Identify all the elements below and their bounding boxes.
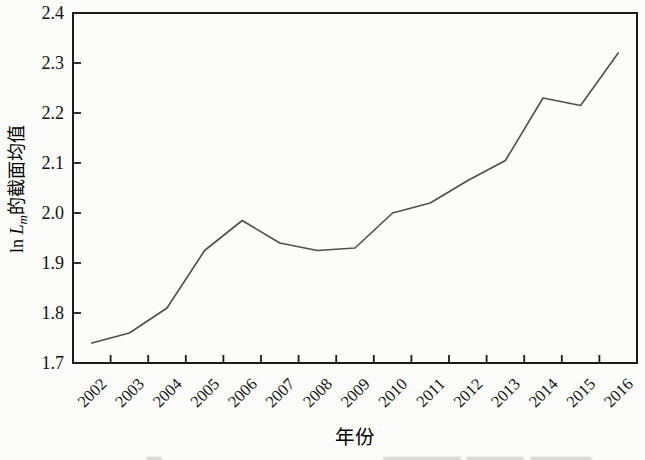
y-tick-label: 1.8: [42, 303, 65, 323]
y-axis-title: ln Lm的截面均值: [7, 125, 30, 253]
x-tick-label: 2007: [262, 374, 299, 411]
x-tick-label: 2011: [412, 374, 448, 410]
y-axis-title-part: m: [15, 215, 30, 224]
plot-area: 1.71.81.92.02.12.22.32.42002200320042005…: [42, 3, 638, 411]
y-tick-label: 2.3: [42, 53, 65, 73]
plot-frame: [73, 13, 637, 363]
y-tick-label: 1.9: [42, 253, 65, 273]
y-tick-label: 2.1: [42, 153, 65, 173]
data-line: [92, 53, 618, 343]
y-tick-label: 2.0: [42, 203, 65, 223]
x-tick-label: 2008: [299, 374, 336, 411]
y-axis-title-part: 的截面均值: [7, 125, 27, 215]
x-tick-label: 2014: [525, 374, 562, 411]
x-axis-title: 年份: [335, 427, 375, 448]
x-tick-label: 2015: [562, 374, 599, 411]
x-tick-label: 2010: [374, 374, 411, 411]
x-tick-label: 2016: [600, 374, 637, 411]
x-tick-label: 2002: [74, 374, 111, 411]
x-tick-label: 2004: [149, 374, 186, 411]
x-tick-label: 2006: [224, 374, 261, 411]
x-tick-label: 2013: [487, 374, 524, 411]
x-tick-label: 2012: [450, 374, 487, 411]
y-tick-label: 2.2: [42, 103, 65, 123]
y-tick-label: 2.4: [42, 3, 65, 23]
x-tick-label: 2005: [186, 374, 223, 411]
line-chart: 1.71.81.92.02.12.22.32.42002200320042005…: [0, 0, 645, 460]
y-axis-title-part: L: [7, 224, 27, 235]
x-tick-label: 2009: [337, 374, 374, 411]
x-tick-label: 2003: [111, 374, 148, 411]
y-axis-title-part: ln: [7, 234, 27, 253]
y-tick-label: 1.7: [42, 353, 65, 373]
figure: 1.71.81.92.02.12.22.32.42002200320042005…: [0, 0, 645, 460]
